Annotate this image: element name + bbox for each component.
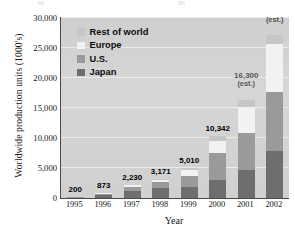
bar-value-label: 5,010: [179, 157, 199, 166]
bar-group-2002: 27,000(est.): [261, 17, 290, 198]
bar-value-label: 200: [69, 186, 82, 195]
legend-item-rest-of-world: Rest of world: [77, 25, 207, 39]
bar-value-label: 873: [97, 182, 110, 191]
legend-swatch-europe: [77, 42, 85, 50]
y-tick-label: 25,000: [11, 44, 57, 52]
y-axis-tick-labels: 30,000 25,000 20,000 15,000 10,000 5,000…: [10, 0, 57, 237]
bar-segment-u-s[interactable]: [266, 92, 283, 151]
y-tick-label: 20,000: [11, 74, 57, 82]
bar-value-text: 3,171: [151, 167, 171, 176]
y-tick-label: 0: [11, 194, 57, 202]
y-tick-label: 30,000: [11, 14, 57, 22]
bar-segment-europe[interactable]: [209, 141, 226, 153]
bar-value-text: 200: [69, 185, 82, 194]
x-tick-label: 1995: [60, 200, 89, 209]
bar-value-text: 5,010: [179, 156, 199, 165]
bar-segment-u-s[interactable]: [209, 153, 226, 180]
legend-swatch-rest-of-world: [77, 28, 85, 36]
x-tick-label: 2000: [203, 200, 232, 209]
legend-swatch-us: [77, 55, 85, 63]
stacked-bar[interactable]: [238, 100, 255, 198]
stacked-bar[interactable]: [95, 193, 112, 198]
x-axis-title: Year: [60, 215, 288, 226]
bar-group-2000: 10,342: [204, 17, 233, 198]
chart-figure: Worldwide production units (1000's) 30,0…: [0, 0, 295, 237]
legend-item-japan: Japan: [77, 66, 207, 80]
legend-item-us: U.S.: [77, 52, 207, 66]
bar-value-label: 3,171: [151, 168, 171, 177]
bar-segment-rest-of-world[interactable]: [238, 100, 255, 107]
stacked-bar[interactable]: [209, 136, 226, 198]
bar-value-est-note: (est.): [234, 80, 258, 89]
bar-value-text: 873: [97, 181, 110, 190]
bar-segment-europe[interactable]: [238, 107, 255, 134]
legend-item-europe: Europe: [77, 39, 207, 53]
bar-value-text: 10,342: [206, 124, 230, 133]
legend-label: Japan: [90, 67, 117, 77]
x-tick-label: 2001: [231, 200, 260, 209]
stacked-bar[interactable]: [67, 197, 84, 198]
bar-value-label: 27,000(est.): [263, 17, 287, 24]
bar-value-text: 16,300: [234, 71, 258, 80]
stacked-bar[interactable]: [181, 168, 198, 198]
bar-segment-rest-of-world[interactable]: [266, 35, 283, 44]
bar-segment-japan[interactable]: [266, 151, 283, 198]
bar-value-label: 10,342: [206, 125, 230, 134]
bar-value-label: 2,230: [122, 174, 142, 183]
stacked-bar[interactable]: [266, 35, 283, 198]
legend-label: Rest of world: [90, 27, 149, 37]
plot-area: 2008732,2303,1715,01010,34216,300(est.)2…: [60, 17, 289, 199]
bar-value-est-note: (est.): [263, 17, 287, 24]
bar-segment-u-s[interactable]: [181, 176, 198, 188]
bar-segment-japan[interactable]: [124, 191, 141, 198]
y-tick-label: 10,000: [11, 134, 57, 142]
chart-legend: Rest of world Europe U.S. Japan: [77, 25, 207, 79]
legend-swatch-japan: [77, 69, 85, 77]
legend-label: Europe: [90, 40, 122, 50]
bar-segment-japan[interactable]: [238, 170, 255, 198]
bar-segment-japan[interactable]: [152, 188, 169, 198]
y-tick-label: 15,000: [11, 104, 57, 112]
bar-value-text: 2,230: [122, 173, 142, 182]
legend-label: U.S.: [90, 54, 108, 64]
x-axis-tick-labels: 1995 1996 1997 1998 1999 2000 2001 2002: [60, 200, 288, 209]
x-tick-label: 1998: [146, 200, 175, 209]
bar-group-2001: 16,300(est.): [232, 17, 261, 198]
x-tick-label: 2002: [260, 200, 289, 209]
bar-segment-japan[interactable]: [181, 187, 198, 198]
stacked-bar[interactable]: [124, 185, 141, 198]
scan-artifact: [178, 1, 185, 5]
bar-segment-europe[interactable]: [266, 44, 283, 92]
x-tick-label: 1997: [117, 200, 146, 209]
bar-segment-u-s[interactable]: [238, 133, 255, 170]
stacked-bar[interactable]: [152, 179, 169, 198]
x-tick-label: 1999: [174, 200, 203, 209]
y-tick-label: 5,000: [11, 164, 57, 172]
bar-segment-japan[interactable]: [95, 195, 112, 198]
bar-segment-japan[interactable]: [209, 180, 226, 198]
bar-value-label: 16,300(est.): [234, 72, 258, 89]
x-tick-label: 1996: [89, 200, 118, 209]
